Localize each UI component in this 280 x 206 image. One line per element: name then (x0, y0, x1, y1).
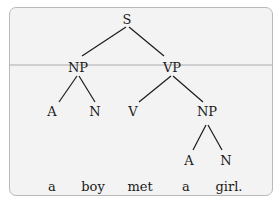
node-a: A (47, 105, 56, 118)
edge-s-np (82, 27, 126, 56)
edge-vp-v (139, 76, 171, 102)
edge-np2-n (208, 125, 222, 150)
node-n: N (89, 105, 100, 118)
word-4: a (182, 180, 190, 193)
node-s: S (123, 13, 132, 26)
node-np-object: NP (197, 105, 217, 118)
edge-s-vp (129, 27, 164, 56)
node-np: NP (68, 61, 88, 74)
edge-np-n (79, 76, 95, 102)
word-2: boy (81, 180, 105, 193)
edge-vp-np (173, 76, 203, 102)
node-n-object: N (220, 154, 231, 167)
word-5: girl. (216, 180, 243, 193)
node-a-object: A (184, 154, 193, 167)
word-1: a (48, 180, 56, 193)
node-vp: VP (163, 61, 181, 74)
tree-edges (0, 0, 280, 206)
edge-np-a (59, 76, 77, 102)
node-v: V (128, 105, 137, 118)
word-3: met (127, 180, 152, 193)
edge-np2-a (193, 125, 206, 150)
